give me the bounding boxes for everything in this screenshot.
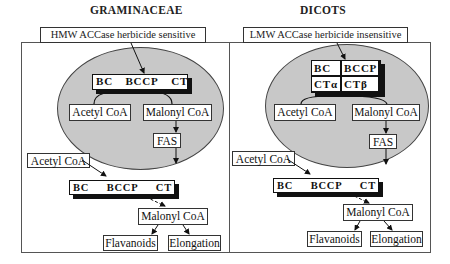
dicots-plastid-malonyl-coa: Malonyl CoA <box>352 104 420 121</box>
domain-ct: CT <box>171 75 188 88</box>
graminaceae-cytosol-malonyl-coa: Malonyl CoA <box>138 208 208 225</box>
dicots-cytosol-accase: BC BCCP CT <box>273 178 379 193</box>
dicots-fas: FAS <box>369 134 397 149</box>
domain-ct: CT <box>156 181 172 194</box>
dicots-elongation: Elongation <box>370 231 423 247</box>
graminaceae-cytosol-accase: BC BCCP CT <box>69 180 175 195</box>
graminaceae-plastid-malonyl-coa: Malonyl CoA <box>143 104 212 121</box>
domain-bccp: BCCP <box>311 179 343 192</box>
subunit-ct-beta: CTβ <box>342 77 378 91</box>
dicots-flavanoids: Flavanoids <box>307 231 362 247</box>
graminaceae-flavanoids: Flavanoids <box>103 235 158 251</box>
graminaceae-elongation: Elongation <box>168 235 221 251</box>
title-graminaceae: GRAMINACEAE <box>90 4 183 16</box>
subunit-bc: BC <box>312 61 340 75</box>
domain-bc: BC <box>73 181 89 194</box>
subunit-bccp: BCCP <box>342 61 378 75</box>
dicots-cytosol-acetyl-coa: Acetyl CoA <box>232 151 295 166</box>
domain-bc: BC <box>277 179 293 192</box>
graminaceae-cytosol-acetyl-coa: Acetyl CoA <box>27 153 90 168</box>
domain-ct: CT <box>360 179 376 192</box>
domain-bccp: BCCP <box>125 75 158 88</box>
domain-bccp: BCCP <box>107 181 139 194</box>
hmw-accase-label: HMW ACCase herbicide sensitive <box>40 27 206 43</box>
graminaceae-plastid-acetyl-coa: Acetyl CoA <box>69 104 131 121</box>
graminaceae-plastid-accase: BC BCCP CT <box>92 74 188 90</box>
title-dicots: DICOTS <box>300 4 346 16</box>
lmw-accase-label: LMW ACCase herbicide insensitive <box>243 27 408 43</box>
dicots-plastid-acetyl-coa: Acetyl CoA <box>274 104 336 121</box>
dicots-plastid-accase: BC BCCP CTα CTβ <box>311 60 381 93</box>
graminaceae-fas: FAS <box>153 133 181 148</box>
domain-bc: BC <box>96 75 113 88</box>
dicots-cytosol-malonyl-coa: Malonyl CoA <box>343 204 413 221</box>
accase-diagram: GRAMINACEAE DICOTS HMW ACCase herbicide … <box>0 0 450 264</box>
subunit-ct-alpha: CTα <box>312 77 340 91</box>
